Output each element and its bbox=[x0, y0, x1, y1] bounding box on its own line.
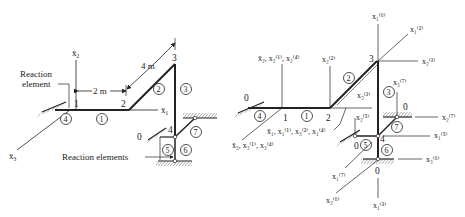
e3-x1-label: x₁⁽³⁾ bbox=[373, 201, 386, 210]
svg-text:7: 7 bbox=[194, 128, 198, 137]
node-0-e6: 0 bbox=[375, 166, 380, 176]
element-circle-5: 5 bbox=[163, 145, 174, 156]
svg-text:7: 7 bbox=[395, 123, 399, 132]
right-figure: 0 1 2 3 4 x̄₂, x₂⁽¹⁾, x₂⁽⁴⁾ x̄₃, x₃⁽¹⁾, … bbox=[232, 12, 456, 210]
svg-text:2: 2 bbox=[347, 74, 351, 83]
node-4: 4 bbox=[380, 134, 385, 144]
e6-x1-label: x₁⁽⁶⁾ bbox=[372, 12, 386, 21]
frame-diagram: x̄1 x̄2 x̄3 2 m 4 m Reaction element 1 2… bbox=[0, 0, 465, 217]
e3-x3-label: x₃⁽³⁾ bbox=[357, 91, 370, 100]
node-2: 2 bbox=[121, 99, 126, 109]
svg-text:3: 3 bbox=[387, 88, 391, 97]
global-x1-label: x̄₁, x₁⁽¹⁾, x₃⁽²⁾, x₁⁽⁴⁾ bbox=[267, 127, 326, 136]
svg-text:6: 6 bbox=[184, 146, 188, 155]
element-circle-5: 5 bbox=[361, 140, 372, 151]
svg-text:4: 4 bbox=[258, 112, 262, 121]
element-circle-6: 6 bbox=[382, 145, 393, 156]
svg-text:3: 3 bbox=[184, 85, 188, 94]
left-figure: x̄1 x̄2 x̄3 2 m 4 m Reaction element 1 2… bbox=[9, 38, 217, 166]
node-0-e7: 0 bbox=[403, 102, 408, 112]
e5-x2-label: x₂⁽⁵⁾ bbox=[356, 113, 370, 122]
element-circle-1: 1 bbox=[97, 114, 108, 125]
reaction-element-label: Reaction bbox=[20, 69, 52, 79]
global-x3-label: x̄₃, x₃⁽¹⁾, x₃⁽⁴⁾ bbox=[232, 141, 273, 150]
node-0-e5: 0 bbox=[354, 141, 359, 151]
fixed-support-element-7 bbox=[183, 113, 217, 118]
reaction-element-label-2: element bbox=[22, 79, 51, 89]
node-3: 3 bbox=[172, 53, 177, 63]
node-3: 3 bbox=[369, 54, 374, 64]
node-4: 4 bbox=[168, 125, 173, 135]
element-circle-7: 7 bbox=[191, 127, 202, 138]
svg-text:2: 2 bbox=[157, 85, 161, 94]
e5-x1-label: x₁⁽⁵⁾ bbox=[434, 131, 448, 140]
e6-x2-label: x₂⁽⁶⁾ bbox=[326, 196, 340, 205]
svg-text:5: 5 bbox=[166, 146, 170, 155]
e2-x1-label: x₁⁽²⁾ bbox=[410, 25, 423, 34]
element-circle-3: 3 bbox=[181, 84, 192, 95]
element-2 bbox=[330, 61, 377, 108]
reaction-elements-label: Reaction elements bbox=[62, 152, 129, 162]
e7-x2-label: x₂⁽⁷⁾ bbox=[442, 113, 456, 122]
e3-x2-label: x₂⁽³⁾ bbox=[422, 57, 435, 66]
dimension-4m: 4 m bbox=[141, 61, 155, 71]
node-2: 2 bbox=[326, 113, 331, 123]
e2-x2-label: x₂⁽²⁾ bbox=[322, 55, 335, 64]
element-circle-2: 2 bbox=[344, 73, 355, 84]
svg-text:6: 6 bbox=[385, 146, 389, 155]
element-circle-6: 6 bbox=[181, 145, 192, 156]
node-1: 1 bbox=[283, 113, 288, 123]
element-circle-4: 4 bbox=[61, 114, 72, 125]
e6-x3-label: x₃⁽⁶⁾ bbox=[426, 155, 440, 164]
node-0-label: 0 bbox=[244, 93, 249, 103]
element-circle-7: 7 bbox=[392, 122, 403, 133]
global-x2-label: x̄₂, x₂⁽¹⁾, x₂⁽⁴⁾ bbox=[258, 54, 299, 63]
element-circle-2: 2 bbox=[154, 84, 165, 95]
axis-x1-label: x̄1 bbox=[161, 105, 169, 116]
element-circle-3: 3 bbox=[384, 87, 395, 98]
dimension-2m: 2 m bbox=[93, 86, 107, 96]
element-circle-1: 1 bbox=[302, 111, 313, 122]
svg-text:1: 1 bbox=[100, 115, 104, 124]
axis-x2-label: x̄2 bbox=[72, 48, 80, 59]
svg-text:1: 1 bbox=[305, 112, 309, 121]
e7-x1-label: x₁⁽⁷⁾ bbox=[332, 172, 346, 181]
axis-x3-label: x̄3 bbox=[9, 151, 17, 162]
e7-x3-label: x₃⁽⁷⁾ bbox=[393, 78, 407, 87]
element-circle-4: 4 bbox=[255, 111, 266, 122]
ground-node-0: 0 bbox=[137, 132, 142, 142]
node-1: 1 bbox=[74, 99, 79, 109]
svg-text:4: 4 bbox=[64, 115, 68, 124]
